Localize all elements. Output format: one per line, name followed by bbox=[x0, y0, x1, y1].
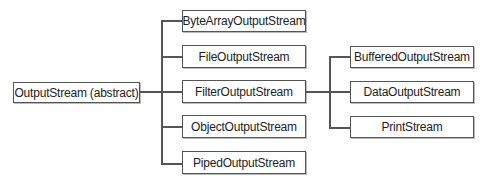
connector-branch bbox=[329, 56, 350, 58]
connector-branch bbox=[161, 126, 182, 128]
connector-branch bbox=[329, 91, 350, 93]
node-label: FilterOutputStream bbox=[195, 85, 293, 99]
connector-branch bbox=[161, 20, 182, 22]
node-printstream: PrintStream bbox=[350, 116, 474, 138]
connector-filter bbox=[306, 91, 330, 93]
node-bytearrayoutputstream: ByteArrayOutputStream bbox=[182, 10, 306, 32]
node-filteroutputstream: FilterOutputStream bbox=[182, 80, 306, 103]
connector-branch bbox=[329, 127, 350, 129]
connector-branch bbox=[161, 56, 182, 58]
node-pipedoutputstream: PipedOutputStream bbox=[182, 151, 306, 174]
node-dataoutputstream: DataOutputStream bbox=[350, 81, 474, 103]
node-outputstream: OutputStream (abstract) bbox=[13, 82, 140, 103]
node-label: FileOutputStream bbox=[199, 50, 290, 64]
node-fileoutputstream: FileOutputStream bbox=[182, 45, 306, 68]
node-label: ObjectOutputStream bbox=[191, 120, 297, 134]
node-label: OutputStream (abstract) bbox=[14, 86, 138, 100]
node-label: PipedOutputStream bbox=[193, 156, 295, 170]
connector-branch bbox=[161, 91, 182, 93]
node-label: ByteArrayOutputStream bbox=[182, 14, 305, 28]
node-label: PrintStream bbox=[381, 120, 442, 134]
connector-root bbox=[140, 91, 162, 93]
node-label: DataOutputStream bbox=[364, 85, 461, 99]
node-objectoutputstream: ObjectOutputStream bbox=[182, 115, 306, 138]
node-bufferedoutputstream: BufferedOutputStream bbox=[350, 46, 474, 68]
node-label: BufferedOutputStream bbox=[354, 50, 470, 64]
connector-branch bbox=[161, 163, 182, 165]
